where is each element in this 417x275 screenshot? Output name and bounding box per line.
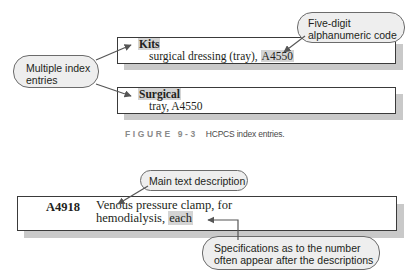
callout-bottom-line1: Specifications as to the number xyxy=(214,242,379,254)
callout-right-line1: Five-digit xyxy=(308,17,404,29)
code-entry-box: A4918 Venous pressure clamp, for hemodia… xyxy=(17,196,397,231)
callout-multiple-index-entries: Multiple index entries xyxy=(13,55,99,88)
surgical-code: A4550 xyxy=(171,100,202,112)
callout-five-digit-code: Five-digit alphanumeric code xyxy=(297,12,405,43)
callout-left-line1: Multiple index xyxy=(26,62,98,74)
unit-specification: each xyxy=(168,211,193,225)
surgical-heading: Surgical xyxy=(138,88,181,100)
callout-main-text-description: Main text description xyxy=(140,170,248,191)
description-line2: hemodialysis, xyxy=(96,211,168,225)
callout-right-line2: alphanumeric code xyxy=(308,29,404,41)
callout-main-text: Main text description xyxy=(149,175,245,187)
callout-left-line2: entries xyxy=(26,74,98,86)
kits-description: surgical dressing (tray), xyxy=(149,50,261,62)
figure-caption-text: HCPCS index entries. xyxy=(206,129,285,139)
callout-bottom-line2: often appear after the descriptions xyxy=(214,254,379,266)
kits-heading: Kits xyxy=(138,38,160,50)
figure-label: FIGURE 9-3 xyxy=(125,129,198,139)
callout-specifications: Specifications as to the number often ap… xyxy=(202,236,380,270)
figure-caption: FIGURE 9-3 HCPCS index entries. xyxy=(125,123,284,141)
kits-code: A4550 xyxy=(261,50,294,62)
code-value: A4918 xyxy=(46,200,80,215)
surgical-index-entry: Surgical tray, A4550 xyxy=(117,87,396,114)
surgical-description: tray, xyxy=(149,100,171,112)
